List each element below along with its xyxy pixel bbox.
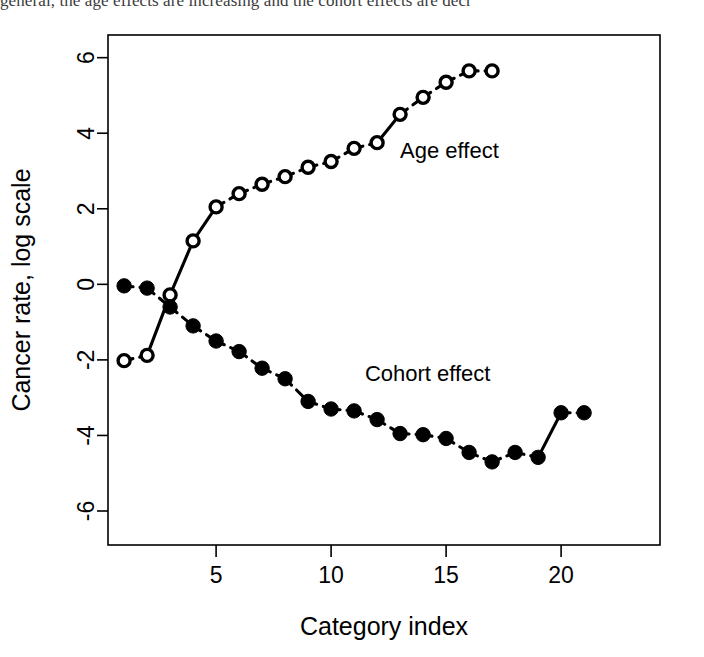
data-point (187, 235, 199, 247)
data-point (141, 349, 153, 361)
y-tick-label: 6 (73, 51, 99, 64)
series-segment (170, 241, 193, 295)
data-point (279, 171, 291, 183)
data-point (233, 188, 245, 200)
data-point (118, 355, 130, 367)
data-point (163, 300, 177, 314)
data-point (348, 142, 360, 154)
chart-figure: -6-4-20246 5101520 Age effect Cohort eff… (0, 18, 704, 657)
chart-canvas: -6-4-20246 5101520 Age effect Cohort eff… (0, 18, 704, 657)
y-tick-label: -6 (73, 501, 99, 521)
data-point (210, 201, 222, 213)
plot-frame (108, 35, 660, 545)
data-point (394, 108, 406, 120)
series-1 (118, 65, 498, 367)
data-point (531, 450, 545, 464)
y-axis-title: Cancer rate, log scale (7, 168, 35, 411)
data-point (462, 445, 476, 459)
data-point (371, 137, 383, 149)
series-2 (117, 279, 591, 469)
data-point (463, 65, 475, 77)
data-point (209, 334, 223, 348)
data-point (485, 455, 499, 469)
y-tick-label: 4 (73, 127, 99, 140)
x-tick-label: 10 (318, 562, 344, 588)
data-point (393, 426, 407, 440)
data-point (440, 76, 452, 88)
data-point (278, 372, 292, 386)
y-tick-label: -4 (73, 425, 99, 446)
y-tick-label: 2 (73, 202, 99, 215)
data-point (508, 445, 522, 459)
data-point (554, 406, 568, 420)
data-point (439, 431, 453, 445)
data-point (117, 279, 131, 293)
data-point (232, 344, 246, 358)
data-point (256, 178, 268, 190)
data-point (302, 161, 314, 173)
data-point (416, 427, 430, 441)
x-axis-ticks (216, 545, 561, 557)
data-point (486, 65, 498, 77)
data-point (370, 412, 384, 426)
x-axis-title: Category index (300, 612, 469, 640)
page-running-text: general, the age effects are increasing … (0, 0, 704, 11)
data-point (325, 156, 337, 168)
data-point (347, 404, 361, 418)
series-layer (117, 65, 591, 469)
y-tick-label: -2 (73, 350, 99, 370)
data-point (417, 91, 429, 103)
data-point (301, 394, 315, 408)
x-tick-label: 20 (548, 562, 574, 588)
x-tick-label: 5 (210, 562, 223, 588)
data-point (186, 319, 200, 333)
data-point (577, 406, 591, 420)
age-effect-annotation: Age effect (400, 138, 499, 163)
data-point (164, 289, 176, 301)
x-tick-label: 15 (433, 562, 459, 588)
cohort-effect-annotation: Cohort effect (365, 361, 491, 386)
data-point (255, 361, 269, 375)
data-point (140, 281, 154, 295)
data-point (324, 402, 338, 416)
x-axis-tick-labels: 5101520 (210, 562, 574, 588)
y-tick-label: 0 (73, 278, 99, 291)
y-axis-tick-labels: -6-4-20246 (73, 51, 99, 521)
